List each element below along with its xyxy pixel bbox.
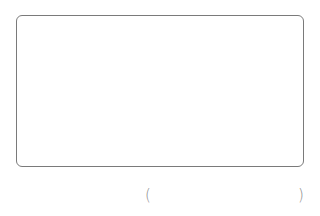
open-parenthesis: ( xyxy=(145,186,151,204)
answer-box[interactable] xyxy=(16,15,304,167)
fill-in-blank[interactable] xyxy=(152,186,296,204)
close-parenthesis: ) xyxy=(298,186,304,204)
